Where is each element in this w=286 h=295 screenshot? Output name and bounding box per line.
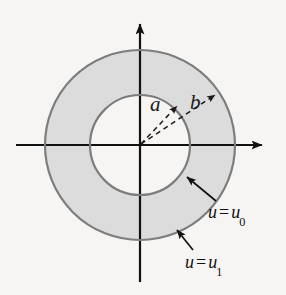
outer-radius-label-b: b [190, 92, 201, 113]
figure-container: a b u=u0 u=u1 [0, 0, 286, 295]
inner-radius-label-a: a [150, 94, 161, 115]
u1-variable: u [185, 252, 194, 272]
inner-boundary-label: u=u0 [208, 203, 246, 225]
u0-subscript: 0 [239, 215, 245, 229]
outer-boundary-label: u=u1 [185, 253, 223, 275]
u0-variable: u [208, 202, 217, 222]
annulus-diagram-svg [0, 0, 286, 295]
u1-leader-arrow [177, 230, 193, 250]
u1-subscript: 1 [216, 265, 222, 279]
u1-equals-sign: = [194, 252, 208, 272]
u0-equals-sign: = [217, 202, 231, 222]
